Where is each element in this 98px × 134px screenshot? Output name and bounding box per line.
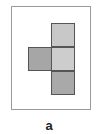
figure-label: a (0, 119, 98, 133)
square-middle (51, 47, 75, 71)
square-middle-left (28, 47, 52, 71)
square-top (51, 23, 75, 47)
square-bottom (51, 71, 75, 95)
